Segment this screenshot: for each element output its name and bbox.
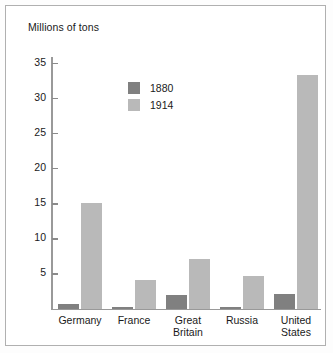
chart-title: Millions of tons [28,21,99,33]
y-axis-line [51,57,53,310]
y-axis-tick-label: 30 [34,91,46,103]
chart-frame: Millions of tons 5101520253035 GermanyFr… [5,5,326,346]
bar-great-britain-1880[interactable] [166,295,187,308]
x-axis-label-united-states: United States [264,314,328,338]
legend-item-1880[interactable]: 1880 [128,79,173,96]
bar-germany-1880[interactable] [58,304,79,308]
chart-legend: 18801914 [128,79,173,113]
legend-label: 1914 [150,99,173,111]
y-axis-tick-label: 35 [34,56,46,68]
y-axis-tick-label: 20 [34,161,46,173]
legend-item-1914[interactable]: 1914 [128,96,173,113]
bar-great-britain-1914[interactable] [189,259,210,308]
figure: Millions of tons 5101520253035 GermanyFr… [0,0,333,353]
bar-france-1914[interactable] [135,280,156,309]
bar-united-states-1880[interactable] [274,294,295,308]
plot-area: 5101520253035 [51,54,323,310]
y-axis-tick-label: 25 [34,126,46,138]
y-axis-tick-mark [52,273,58,275]
bar-russia-1880[interactable] [220,307,241,309]
legend-label: 1880 [150,82,173,94]
legend-swatch-icon [128,82,140,94]
bar-russia-1914[interactable] [243,276,264,308]
y-axis-tick-label: 5 [40,266,46,278]
y-axis-tick-mark [52,63,58,65]
y-axis-tick-mark [52,133,58,135]
bar-united-states-1914[interactable] [297,75,318,308]
y-axis-tick-mark [52,203,58,205]
y-axis-tick-label: 15 [34,196,46,208]
y-axis-tick-mark [52,98,58,100]
y-axis-tick-mark [52,168,58,170]
legend-swatch-icon [128,99,140,111]
y-axis-tick-mark [52,238,58,240]
x-axis-line [51,309,321,311]
y-axis-tick-label: 10 [34,231,46,243]
bar-france-1880[interactable] [112,307,133,308]
bar-germany-1914[interactable] [81,203,102,308]
